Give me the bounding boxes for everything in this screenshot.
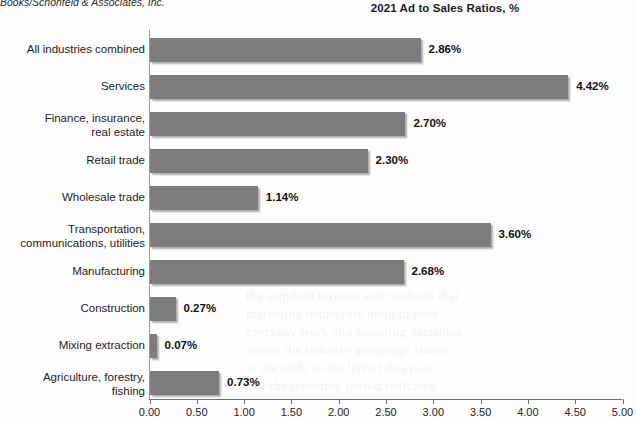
bar-value-label: 0.07% — [165, 339, 198, 351]
category-label: Finance, insurance, real estate — [0, 112, 145, 139]
category-label: Transportation, communications, utilitie… — [0, 223, 145, 250]
category-label: Mixing extraction — [0, 339, 145, 353]
bar-value-label: 0.27% — [184, 302, 217, 314]
category-label: Services — [0, 80, 145, 94]
bar-value-label: 2.68% — [412, 265, 445, 277]
bar-value-label: 1.14% — [266, 191, 299, 203]
category-label: Retail trade — [0, 154, 145, 168]
bar-value-label: 2.30% — [376, 154, 409, 166]
bar[interactable] — [150, 149, 368, 173]
bar-row[interactable]: Transportation, communications, utilitie… — [0, 223, 637, 260]
bar-row[interactable]: Mixing extraction0.07% — [0, 334, 637, 371]
bar[interactable] — [150, 186, 258, 210]
bar[interactable] — [150, 334, 157, 358]
bar[interactable] — [150, 371, 219, 395]
category-label: Wholesale trade — [0, 191, 145, 205]
bar-value-label: 3.60% — [499, 228, 532, 240]
category-label: Manufacturing — [0, 265, 145, 279]
category-label: Agriculture, forestry, fishing — [0, 371, 145, 398]
bar[interactable] — [150, 260, 404, 284]
bar-row[interactable]: Retail trade2.30% — [0, 149, 637, 186]
bar[interactable] — [150, 112, 405, 136]
bar-row[interactable]: Services4.42% — [0, 75, 637, 112]
bar[interactable] — [150, 75, 568, 99]
bar[interactable] — [150, 38, 421, 62]
bar-value-label: 4.42% — [576, 80, 609, 92]
bar-row[interactable]: Finance, insurance, real estate2.70% — [0, 112, 637, 149]
bar-row[interactable]: Agriculture, forestry, fishing0.73% — [0, 371, 637, 408]
category-label: Construction — [0, 302, 145, 316]
category-label: All industries combined — [0, 43, 145, 57]
bar-value-label: 0.73% — [227, 376, 260, 388]
bar-row[interactable]: Wholesale trade1.14% — [0, 186, 637, 223]
bar-value-label: 2.86% — [429, 43, 462, 55]
bar-chart-plot: 0.000.501.001.502.002.503.003.504.004.50… — [0, 0, 637, 421]
bar-row[interactable]: Construction0.27% — [0, 297, 637, 334]
bar[interactable] — [150, 223, 491, 247]
bar-value-label: 2.70% — [413, 117, 446, 129]
chart-page: the standard formats and methods that ma… — [0, 0, 637, 421]
bar-row[interactable]: Manufacturing2.68% — [0, 260, 637, 297]
bar-row[interactable]: All industries combined2.86% — [0, 38, 637, 75]
bar[interactable] — [150, 297, 176, 321]
